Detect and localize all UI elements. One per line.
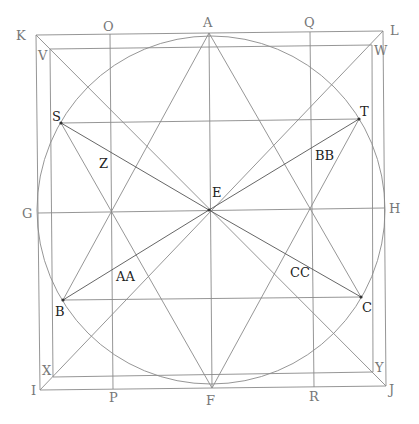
- geometric-construction-diagram: KOAQLVWSTZBBEGHAACCBCXYIJPFR: [0, 0, 419, 424]
- label-t: T: [360, 104, 369, 119]
- label-j: J: [387, 382, 394, 397]
- segment-AB: [63, 33, 209, 300]
- point-c: [359, 295, 362, 298]
- segment-YX: [53, 372, 373, 377]
- segment-BE: [63, 210, 209, 300]
- label-p: P: [109, 390, 118, 405]
- segment-FS: [61, 123, 212, 388]
- label-f: F: [206, 393, 215, 408]
- label-h: H: [389, 201, 400, 216]
- segment-BC: [63, 297, 361, 300]
- label-q: Q: [304, 15, 315, 30]
- segment-VW: [50, 45, 372, 49]
- segment-CE: [209, 210, 361, 297]
- label-v: V: [37, 48, 48, 63]
- point-b: [61, 298, 64, 301]
- construction-lines: [36, 31, 386, 390]
- label-l: L: [390, 23, 399, 38]
- label-aa: AA: [115, 269, 135, 284]
- label-i: I: [31, 383, 36, 398]
- label-z: Z: [99, 156, 108, 171]
- point-labels: KOAQLVWSTZBBEGHAACCBCXYIJPFR: [16, 15, 400, 408]
- segment-AC: [209, 33, 361, 297]
- label-x: X: [42, 363, 52, 378]
- label-y: Y: [374, 360, 384, 375]
- label-r: R: [309, 389, 320, 404]
- label-cc: CC: [290, 265, 310, 280]
- label-b: B: [55, 304, 65, 319]
- label-k: K: [16, 28, 26, 43]
- label-a: A: [202, 15, 213, 30]
- label-s: S: [52, 109, 61, 124]
- label-e: E: [212, 185, 222, 200]
- segment-SE: [61, 123, 209, 210]
- label-w: W: [374, 43, 388, 58]
- point-e: [207, 208, 210, 211]
- label-c: C: [362, 300, 372, 315]
- label-o: O: [103, 19, 114, 34]
- segment-TE: [209, 119, 359, 210]
- segment-LJ: [383, 31, 386, 386]
- label-g: G: [22, 206, 32, 221]
- label-bb: BB: [315, 148, 334, 163]
